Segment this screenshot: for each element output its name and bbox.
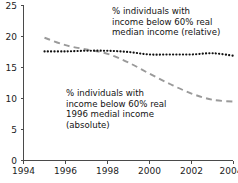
annotation-relative-series: % individuals with income below 60% real… bbox=[112, 6, 236, 38]
annotation-absolute-series: % individuals with income below 60% real… bbox=[66, 88, 178, 130]
x-tick-label-2002: 2002 bbox=[180, 166, 203, 176]
y-tick-label-10: 10 bbox=[6, 94, 18, 104]
x-tick-label-2004: 2004 bbox=[220, 166, 238, 176]
y-tick-label-5: 5 bbox=[11, 125, 17, 135]
x-tick-label-1996: 1996 bbox=[54, 166, 77, 176]
x-tick-label-2000: 2000 bbox=[138, 166, 161, 176]
x-tick-label-1994: 1994 bbox=[12, 166, 35, 176]
y-tick-label-15: 15 bbox=[6, 63, 17, 73]
y-tick-label-0: 0 bbox=[11, 156, 17, 166]
chart-container: 0 5 10 15 20 25 1994 1996 1998 2000 2002… bbox=[0, 0, 238, 183]
y-tick-label-20: 20 bbox=[6, 32, 18, 42]
y-tick-label-25: 25 bbox=[6, 1, 17, 11]
series-line-relative bbox=[45, 51, 234, 56]
x-tick-label-1998: 1998 bbox=[96, 166, 119, 176]
